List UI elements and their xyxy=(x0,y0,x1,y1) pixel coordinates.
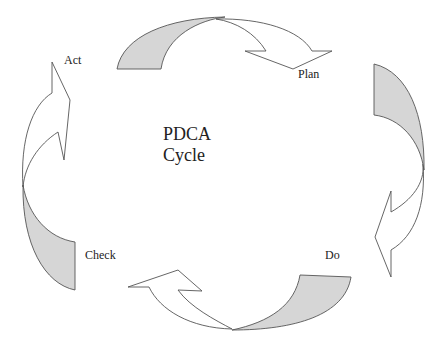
pdca-cycle-diagram xyxy=(0,0,446,345)
stage-label-act: Act xyxy=(64,53,81,68)
arrow-head-plan xyxy=(216,19,332,69)
arrow-plan-to-do xyxy=(374,64,424,277)
title-line-1: PDCA xyxy=(163,124,211,145)
arrow-head-do xyxy=(375,164,423,277)
stage-label-check: Check xyxy=(85,248,116,263)
arrow-tail-do-check xyxy=(232,275,351,330)
arrow-tail-plan-do xyxy=(374,64,424,170)
arrow-tail-check-act xyxy=(23,185,75,290)
arrow-check-to-act xyxy=(23,62,75,290)
arrow-tail-act-plan xyxy=(117,17,225,69)
arrow-head-act xyxy=(23,62,70,187)
arrow-act-to-plan xyxy=(117,17,332,69)
arrow-head-check xyxy=(128,270,232,329)
title-line-2: Cycle xyxy=(163,145,211,166)
arrow-do-to-check xyxy=(128,270,351,330)
diagram-title: PDCA Cycle xyxy=(163,124,211,166)
stage-label-do: Do xyxy=(325,248,340,263)
stage-label-plan: Plan xyxy=(298,67,319,82)
